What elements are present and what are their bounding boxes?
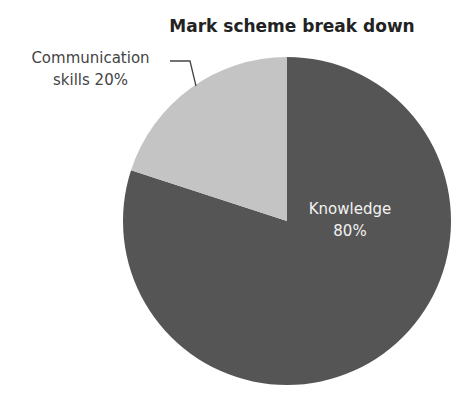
leader-line (170, 61, 196, 86)
label-knowledge-line2: 80% (300, 220, 400, 242)
label-knowledge-line1: Knowledge (300, 198, 400, 220)
label-communication-line1: Communication (18, 47, 163, 69)
label-communication: Communication skills 20% (18, 47, 163, 91)
label-knowledge: Knowledge 80% (300, 198, 400, 242)
label-communication-line2: skills 20% (18, 69, 163, 91)
